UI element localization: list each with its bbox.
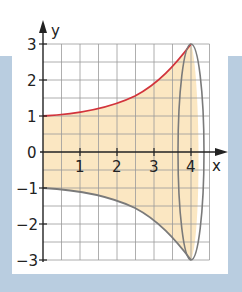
y-axis-arrow-icon <box>39 20 47 33</box>
y-tick-neg2: −2 <box>16 216 38 234</box>
x-axis-arrow-icon <box>215 148 228 156</box>
y-tick-0: 0 <box>27 144 37 162</box>
chart-canvas: y x 1 2 3 4 3 2 1 0 −1 −2 −3 <box>0 0 242 292</box>
x-tick-2: 2 <box>112 158 122 176</box>
x-tick-1: 1 <box>75 158 85 176</box>
y-tick-neg1: −1 <box>16 180 38 198</box>
y-tick-neg3: −3 <box>16 252 38 270</box>
y-axis-label: y <box>51 22 60 40</box>
y-tick-3: 3 <box>27 36 37 54</box>
y-tick-1: 1 <box>27 108 37 126</box>
x-tick-3: 3 <box>149 158 159 176</box>
x-tick-4: 4 <box>186 158 196 176</box>
x-axis-label: x <box>212 157 221 175</box>
y-tick-2: 2 <box>27 72 37 90</box>
